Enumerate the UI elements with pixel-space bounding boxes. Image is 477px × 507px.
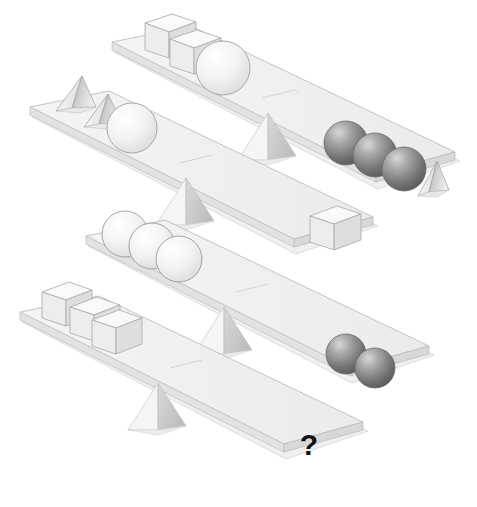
scale-4-right-unknown: ? xyxy=(300,428,318,461)
white-sphere xyxy=(156,236,202,282)
puzzle-canvas: ? xyxy=(0,0,477,507)
dark-sphere xyxy=(355,348,395,388)
white-sphere xyxy=(107,103,157,153)
balance-puzzle-scene: ? xyxy=(0,0,477,507)
scale-4-fulcrum-left-face xyxy=(128,383,158,430)
unknown-question-mark: ? xyxy=(300,428,318,461)
scale-4-left-items xyxy=(42,282,142,354)
white-sphere xyxy=(196,41,250,95)
pyramid xyxy=(56,76,96,113)
dark-sphere xyxy=(382,147,426,191)
